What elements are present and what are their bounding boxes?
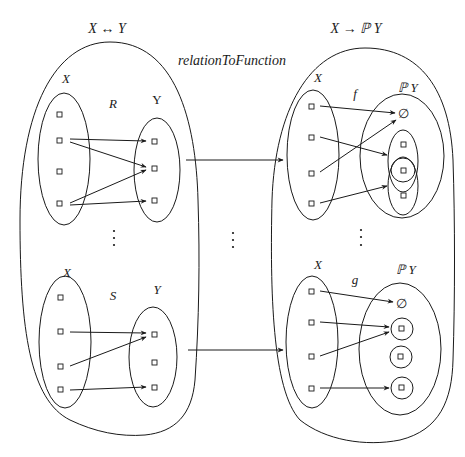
element-y1 (152, 332, 157, 337)
codomain-label-Y: Y (152, 92, 162, 107)
right-ellipsis-icon (360, 229, 362, 246)
element-x3 (57, 169, 62, 174)
title-relations: X ↔ Y (87, 21, 128, 36)
relation-name-R: R (108, 96, 117, 111)
element-y1 (152, 139, 157, 144)
element-x3 (309, 354, 314, 359)
domain-label-X: X (61, 71, 71, 86)
title-functions: X → ℙ Y (330, 21, 384, 36)
element-x4 (57, 201, 62, 206)
codomain-label-PY: ℙ Y (396, 262, 417, 277)
domain-set-X (38, 93, 90, 225)
element-c (399, 385, 404, 390)
subset-ellipse-lower (388, 157, 418, 215)
element-y3 (152, 385, 157, 390)
element-x1 (58, 295, 63, 300)
pair-arrow (70, 201, 146, 205)
map-arrow (320, 137, 387, 155)
element-x1 (57, 112, 62, 117)
function-f: X f ℙ Y ∅ (287, 70, 444, 220)
domain-label-X: X (313, 257, 323, 272)
pair-arrow (70, 337, 146, 366)
element-x3 (309, 171, 314, 176)
element-y2 (152, 360, 157, 365)
element-x3 (58, 364, 63, 369)
element-y2 (152, 166, 157, 171)
element-b (401, 168, 406, 173)
function-g: X g ℙ Y ∅ (286, 257, 441, 415)
pair-arrow (70, 139, 146, 141)
element-x4 (309, 201, 314, 206)
pair-arrow (70, 332, 146, 333)
functions-space-outline (271, 48, 454, 443)
element-a (401, 142, 406, 147)
element-x4 (58, 387, 63, 392)
empty-set-icon: ∅ (396, 296, 407, 311)
codomain-label-PY: ℙ Y (398, 80, 419, 95)
domain-set-X (39, 276, 91, 408)
pair-arrow (70, 170, 146, 203)
codomain-label-Y: Y (153, 282, 162, 297)
relation-to-function-diagram: X ↔ Y X → ℙ Y relationToFunction X R Y X… (0, 0, 465, 457)
function-name-g: g (352, 272, 359, 287)
subset-ellipse-upper (388, 130, 418, 192)
relation-S: X S Y (39, 265, 177, 408)
mapping-label: relationToFunction (178, 53, 286, 68)
element-c (401, 193, 406, 198)
domain-label-X: X (313, 70, 323, 85)
empty-set-icon: ∅ (398, 106, 409, 121)
element-x1 (309, 104, 314, 109)
element-b (398, 354, 403, 359)
element-x4 (309, 386, 314, 391)
function-name-f: f (353, 86, 359, 101)
element-a (399, 326, 404, 331)
left-ellipsis-icon (113, 230, 115, 246)
element-x2 (57, 138, 62, 143)
element-x1 (309, 289, 314, 294)
element-x2 (58, 329, 63, 334)
element-x2 (309, 135, 314, 140)
map-arrow (320, 332, 389, 356)
middle-ellipsis-icon (232, 232, 234, 248)
element-x2 (309, 320, 314, 325)
map-arrow (320, 186, 387, 203)
relation-R: X R Y (38, 71, 180, 225)
relation-name-S: S (110, 288, 117, 303)
element-y3 (152, 198, 157, 203)
map-arrow (320, 120, 396, 172)
codomain-set-Y (129, 307, 177, 407)
map-arrow (320, 322, 389, 327)
